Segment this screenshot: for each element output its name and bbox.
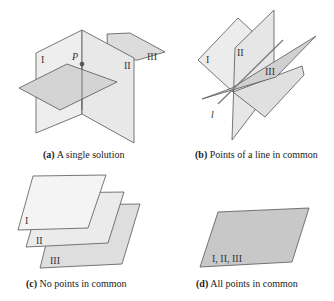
label-p: P [71,51,78,62]
label-i: I [206,54,209,65]
label-ii: II [36,235,43,246]
panel-b-figure [198,10,316,140]
point-p [80,62,84,66]
label-iii: III [50,255,60,266]
panel-a-figure [19,30,165,143]
caption-b: (b) Points of a line in common [195,149,318,160]
caption-c: (c) No points in common [26,278,127,289]
label-ii: II [124,60,131,71]
label-ii: II [237,47,244,58]
caption-a: (a) A single solution [43,149,124,160]
label-l: l [211,109,214,120]
label-i: I [41,54,44,65]
label-i: I [25,215,28,226]
label-iii: III [147,51,157,62]
caption-d: (d) All points in common [196,278,298,289]
label-iii: III [265,66,275,77]
panel-c-figure [18,175,140,268]
label-i-ii-iii: I, II, III [212,253,242,264]
